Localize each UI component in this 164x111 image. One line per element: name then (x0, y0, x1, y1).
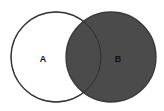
set-b-circle (66, 12, 156, 102)
set-b-label: B (115, 54, 122, 64)
set-a-label: A (40, 54, 47, 64)
venn-diagram: A B (0, 0, 164, 111)
